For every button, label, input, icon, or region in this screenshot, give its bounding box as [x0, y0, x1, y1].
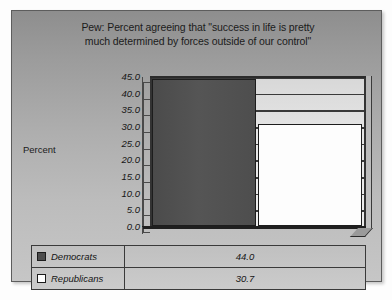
legend-row[interactable]: Democrats44.0 — [32, 246, 365, 267]
chart-title-line-1: Pew: Percent agreeing that "success in l… — [30, 20, 366, 34]
legend-swatch-icon — [37, 252, 46, 261]
y-axis-tick-mark — [142, 127, 150, 133]
y-axis-tick-label: 30.0 — [104, 121, 140, 132]
y-axis-tick-labels: 45.040.035.030.025.020.015.010.05.00.0 — [104, 76, 140, 242]
y-axis-tick-label: 35.0 — [104, 104, 140, 115]
legend-series-label: Democrats — [51, 251, 97, 262]
y-axis-tick-label: 10.0 — [104, 187, 140, 198]
legend-swatch-icon — [37, 274, 46, 283]
y-axis-tick-mark — [142, 210, 150, 216]
legend-name-cell: Democrats — [32, 246, 125, 267]
y-axis-tick-mark — [142, 194, 150, 200]
y-axis-tick-label: 25.0 — [104, 137, 140, 148]
y-axis-tick-mark — [142, 144, 150, 150]
bar-republicans — [258, 124, 362, 226]
legend-series-value: 30.7 — [125, 268, 365, 289]
y-axis-tick-mark — [142, 177, 150, 183]
bars-layer — [152, 76, 364, 226]
y-axis-tick-mark — [142, 227, 150, 233]
legend-data-table: Democrats44.0Republicans30.7 — [31, 245, 366, 290]
chart-screenshot: Pew: Percent agreeing that "success in l… — [0, 0, 392, 300]
chart-title-line-2: much determined by forces outside of our… — [30, 34, 366, 48]
chart-panel: Pew: Percent agreeing that "success in l… — [11, 10, 382, 282]
chart-title: Pew: Percent agreeing that "success in l… — [30, 20, 366, 48]
legend-name-cell: Republicans — [32, 268, 125, 289]
y-axis-tick-mark — [142, 160, 150, 166]
bar-democrats — [152, 79, 256, 226]
x-axis-baseline — [142, 226, 366, 229]
y-axis-tick-label: 0.0 — [104, 221, 140, 232]
y-axis-tick-label: 45.0 — [104, 71, 140, 82]
y-axis-tick-mark — [142, 77, 150, 83]
y-axis-tick-mark — [142, 94, 150, 100]
y-axis-tick-label: 40.0 — [104, 87, 140, 98]
legend-row[interactable]: Republicans30.7 — [32, 267, 365, 289]
plot-right-side-wall — [366, 76, 372, 228]
plot-floor-ledge — [350, 228, 373, 237]
legend-series-label: Republicans — [51, 273, 103, 284]
y-axis-tick-mark — [142, 110, 150, 116]
y-axis-tick-label: 15.0 — [104, 171, 140, 182]
y-axis-tick-label: 5.0 — [104, 204, 140, 215]
y-axis-title: Percent — [23, 144, 78, 155]
plot-area: 45.040.035.030.025.020.015.010.05.00.0 — [104, 76, 372, 242]
legend-series-value: 44.0 — [125, 246, 365, 267]
y-axis-tick-label: 20.0 — [104, 154, 140, 165]
